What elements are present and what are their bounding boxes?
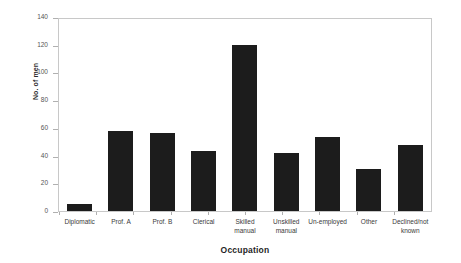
y-axis-tick-mark [53,212,58,213]
bar[interactable] [150,133,175,211]
y-axis-tick-label: 140 [37,13,48,20]
x-axis-tick [96,212,133,216]
x-axis-tick [394,212,431,216]
bar[interactable] [108,131,133,211]
x-axis-tick-mark [282,212,283,215]
y-axis-tick-label: 60 [41,124,48,131]
x-axis-category-label: Clerical [183,218,224,244]
bar-chart-figure: No. of men 020406080100120140 Diplomatic… [0,0,461,263]
bar-slot [142,19,183,211]
bar[interactable] [274,153,299,211]
x-axis-tick-mark [245,212,246,215]
y-axis-tick-label: 20 [41,179,48,186]
y-axis-tick-label: 100 [37,68,48,75]
x-axis-tick-mark [59,212,60,215]
x-axis-tick-mark [133,212,134,215]
bar-slot [100,19,141,211]
y-axis-tick-label: 40 [41,152,48,159]
x-axis-tick [171,212,208,216]
x-axis-title: Occupation [59,245,431,255]
x-axis-tick-mark [394,212,395,215]
x-axis-category-label: Other [348,218,389,244]
x-axis-category-label: Un-employed [307,218,348,244]
x-axis-category-label: Skilled manual [224,218,265,244]
bar[interactable] [67,204,92,211]
y-axis-tick-label: 0 [44,207,48,214]
bar-slot [390,19,431,211]
y-axis-tick-label: 80 [41,96,48,103]
x-axis-tick-mark [96,212,97,215]
x-axis-tick [133,212,170,216]
x-axis-category-label: Unskilled manual [266,218,307,244]
bar-slot [307,19,348,211]
bar-slot [348,19,389,211]
x-axis-ticks [59,212,431,216]
x-axis-labels: DiplomaticProf. AProf. BClericalSkilled … [59,218,431,244]
x-axis-tick [245,212,282,216]
x-axis-tick [282,212,319,216]
x-axis-tick [59,212,96,216]
x-axis-tick [319,212,356,216]
x-axis-category-label: Prof. B [142,218,183,244]
x-axis-category-label: Prof. A [100,218,141,244]
y-axis-tick-label: 120 [37,41,48,48]
x-axis-tick [208,212,245,216]
bar[interactable] [191,151,216,211]
x-axis-category-label: Diplomatic [59,218,100,244]
bars-container [59,19,431,211]
y-axis-title: No. of men [32,47,39,117]
x-axis-tick-mark [319,212,320,215]
bar[interactable] [356,169,381,212]
x-axis-tick-mark [208,212,209,215]
bar-slot [183,19,224,211]
bar-slot [266,19,307,211]
x-axis-tick-mark [171,212,172,215]
x-axis-category-label: Declined/not known [390,218,431,244]
bar-slot [224,19,265,211]
bar-slot [59,19,100,211]
x-axis-tick [357,212,394,216]
x-axis-tick-mark [357,212,358,215]
bar[interactable] [315,137,340,211]
bar[interactable] [232,45,257,211]
bar[interactable] [398,145,423,211]
